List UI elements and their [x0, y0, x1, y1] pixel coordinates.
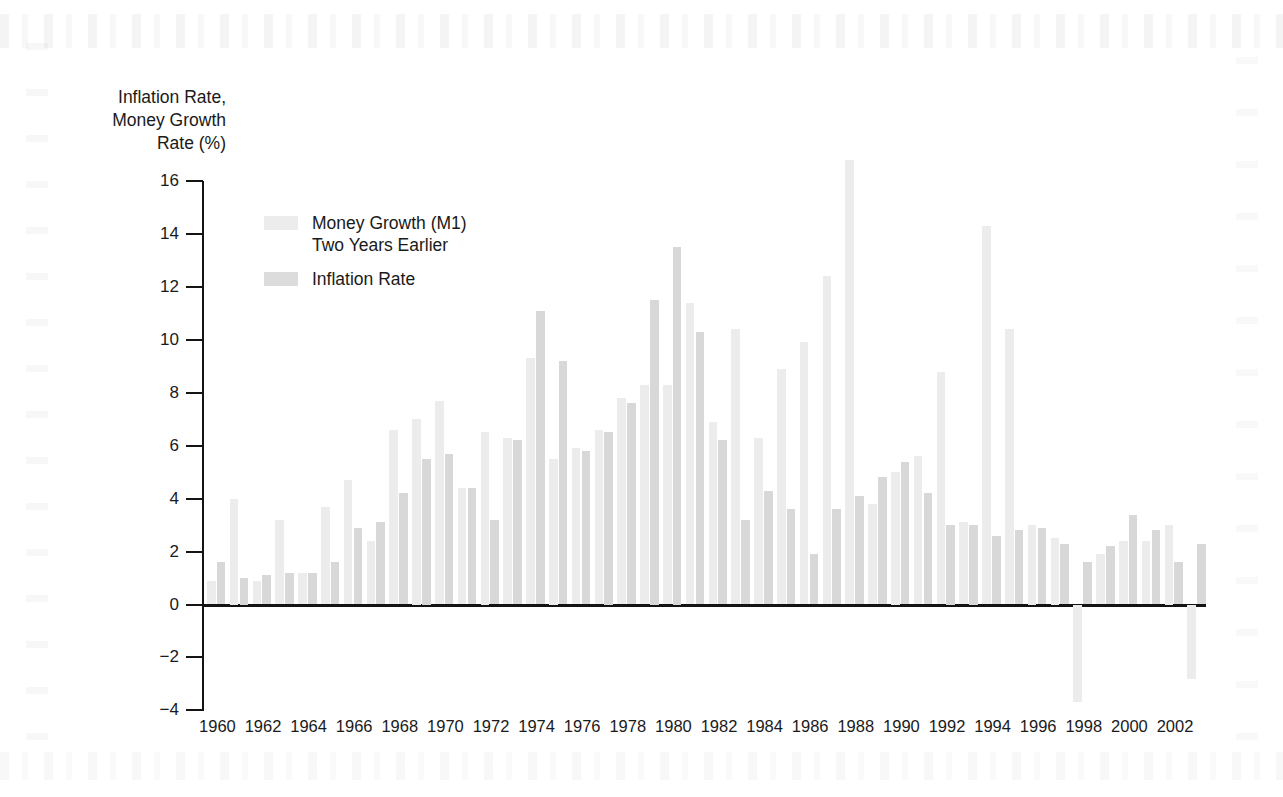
y-axis-tick [186, 656, 203, 658]
bar-money-growth [344, 480, 353, 604]
y-axis-tick-label: 12 [133, 278, 179, 295]
y-axis-tick [186, 392, 203, 394]
y-axis-tick [186, 709, 203, 711]
bar-money-growth [298, 573, 307, 605]
x-axis-tick-label: 1968 [377, 718, 423, 735]
bar-inflation [513, 440, 522, 604]
y-axis-tick-label: 2 [133, 543, 179, 560]
bar-inflation [946, 525, 955, 604]
x-axis-tick-label: 2000 [1106, 718, 1152, 735]
bar-money-growth [1165, 525, 1174, 604]
bar-money-growth [253, 581, 262, 605]
x-axis-tick-label: 1986 [787, 718, 833, 735]
bar-inflation [582, 451, 591, 605]
bar-money-growth [891, 472, 900, 604]
bar-money-growth [458, 488, 467, 604]
x-axis-tick-label: 2002 [1152, 718, 1198, 735]
bar-inflation [810, 554, 819, 604]
bar-inflation [1106, 546, 1115, 604]
bar-inflation [308, 573, 317, 605]
bar-inflation [445, 454, 454, 605]
bar-inflation [992, 536, 1001, 605]
y-axis-tick [186, 498, 203, 500]
bar-money-growth [207, 581, 216, 605]
bar-money-growth [914, 456, 923, 604]
bar-money-growth [481, 432, 490, 604]
x-axis-tick-label: 1972 [468, 718, 514, 735]
y-axis-tick [186, 604, 203, 606]
x-axis-tick-label: 1962 [240, 718, 286, 735]
x-axis-tick-label: 1964 [286, 718, 332, 735]
x-axis-tick-label: 1976 [559, 718, 605, 735]
bar-money-growth [572, 448, 581, 604]
y-axis-tick [186, 551, 203, 553]
bar-money-growth [982, 226, 991, 605]
bar-inflation [354, 528, 363, 605]
bar-money-growth [321, 507, 330, 605]
x-axis-tick-label: 1996 [1015, 718, 1061, 735]
bar-money-growth [823, 276, 832, 604]
bar-inflation [490, 520, 499, 605]
bar-inflation [399, 493, 408, 604]
bar-inflation [604, 432, 613, 604]
bar-money-growth [754, 438, 763, 605]
bar-money-growth [526, 358, 535, 604]
bar-money-growth [731, 329, 740, 604]
bar-inflation [240, 578, 249, 604]
legend-label-inflation: Inflation Rate [312, 268, 415, 290]
bar-money-growth [800, 342, 809, 604]
y-axis-tick-label: −2 [133, 648, 179, 665]
bar-money-growth [1051, 538, 1060, 604]
legend-swatch-money-growth [264, 216, 298, 230]
bar-money-growth [959, 522, 968, 604]
bar-inflation [1038, 528, 1047, 605]
bar-inflation [969, 525, 978, 604]
bar-inflation [422, 459, 431, 605]
bar-money-growth [275, 520, 284, 605]
x-axis-tick-label: 1990 [878, 718, 924, 735]
x-axis-tick-label: 1970 [422, 718, 468, 735]
y-axis-tick [186, 445, 203, 447]
bar-money-growth [1142, 541, 1151, 605]
bar-inflation [855, 496, 864, 605]
bar-inflation [536, 311, 545, 605]
bar-inflation [1083, 562, 1092, 604]
x-axis-tick-label: 1992 [924, 718, 970, 735]
bar-inflation [559, 361, 568, 605]
bar-inflation [627, 403, 636, 604]
bar-money-growth [549, 459, 558, 605]
bar-inflation [924, 493, 933, 604]
y-axis-tick-label: 8 [133, 384, 179, 401]
y-axis-tick-label: 6 [133, 437, 179, 454]
y-axis-tick [186, 180, 203, 182]
legend-item-inflation: Inflation Rate [264, 268, 467, 290]
y-axis-tick [186, 339, 203, 341]
bar-money-growth [389, 430, 398, 605]
bar-money-growth [868, 504, 877, 605]
bar-inflation [1060, 544, 1069, 605]
x-axis-tick-label: 1984 [742, 718, 788, 735]
bar-inflation [696, 332, 705, 605]
bar-money-growth [617, 398, 626, 604]
bar-money-growth [777, 369, 786, 605]
bar-money-growth [1096, 554, 1105, 604]
x-axis-tick-label: 1982 [696, 718, 742, 735]
bar-money-growth [230, 499, 239, 605]
bar-inflation [1197, 544, 1206, 605]
bar-money-growth [435, 401, 444, 605]
x-axis-tick-label: 1998 [1061, 718, 1107, 735]
y-axis-title: Inflation Rate, Money Growth Rate (%) [46, 86, 226, 155]
bar-inflation [262, 575, 271, 604]
bar-money-growth [1119, 541, 1128, 605]
bar-inflation [331, 562, 340, 604]
bar-money-growth [845, 160, 854, 605]
bar-inflation [787, 509, 796, 604]
bar-money-growth [640, 385, 649, 605]
x-axis-tick-label: 1966 [331, 718, 377, 735]
bar-inflation [650, 300, 659, 604]
bar-inflation [878, 477, 887, 604]
legend-item-money-growth: Money Growth (M1) Two Years Earlier [264, 212, 467, 256]
x-axis-tick-label: 1980 [650, 718, 696, 735]
x-axis-tick-label: 1988 [833, 718, 879, 735]
legend-label-money-growth: Money Growth (M1) Two Years Earlier [312, 212, 467, 256]
